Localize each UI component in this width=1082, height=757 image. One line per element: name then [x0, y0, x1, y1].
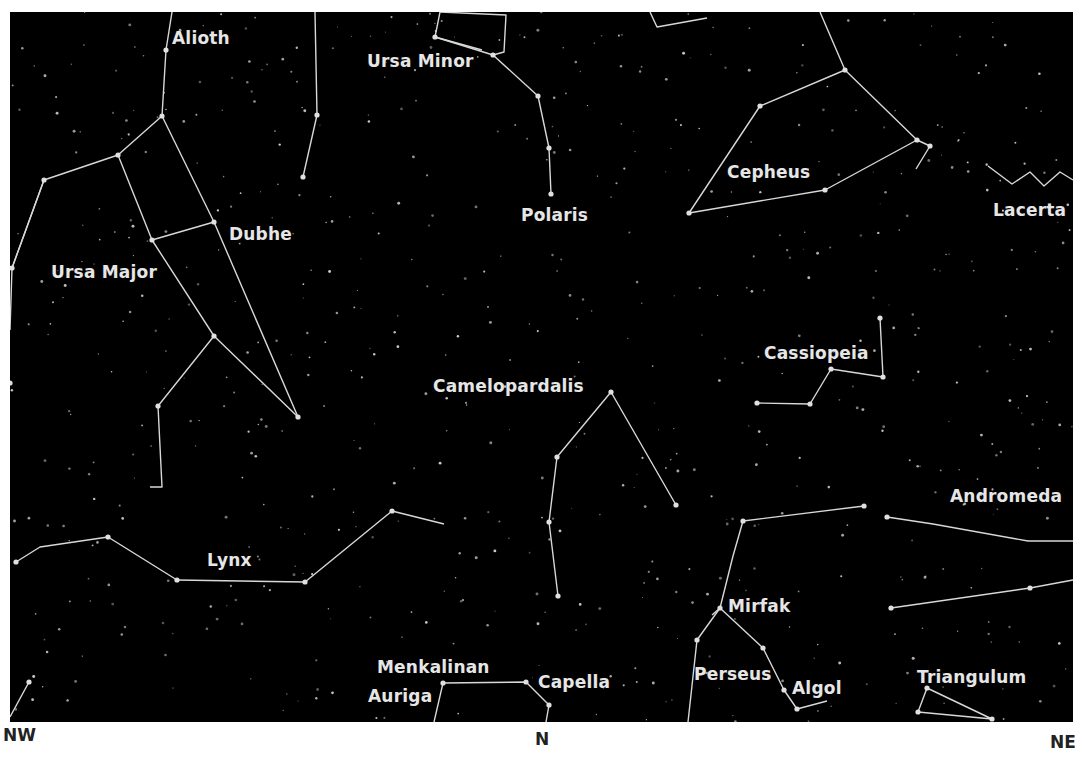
background-star	[657, 627, 658, 628]
background-star	[796, 72, 797, 73]
bright-star	[877, 315, 882, 320]
background-star	[303, 297, 304, 298]
background-star	[1055, 159, 1057, 161]
background-star	[734, 720, 737, 722]
background-star	[578, 361, 580, 363]
background-star	[830, 705, 832, 707]
background-star	[687, 13, 688, 14]
background-star	[1018, 641, 1020, 643]
bright-star	[757, 103, 762, 108]
background-star	[593, 42, 595, 44]
background-star	[466, 404, 467, 405]
bright-star	[807, 401, 812, 406]
constellation-line	[16, 511, 444, 582]
background-star	[210, 605, 212, 607]
background-star	[560, 259, 562, 261]
background-star	[172, 687, 173, 688]
background-star	[184, 377, 185, 378]
background-star	[576, 446, 577, 447]
background-star	[338, 529, 340, 531]
background-star	[852, 386, 854, 388]
background-star	[279, 143, 281, 145]
background-star	[727, 216, 728, 217]
background-star	[899, 229, 900, 230]
background-star	[693, 468, 696, 471]
background-star	[875, 270, 877, 272]
background-star	[248, 546, 250, 548]
background-star	[992, 36, 994, 38]
background-star	[574, 61, 577, 64]
background-star	[357, 290, 358, 291]
background-star	[1065, 668, 1066, 669]
background-star	[817, 710, 819, 712]
background-star	[940, 469, 942, 471]
background-star	[1008, 626, 1010, 628]
background-star	[69, 601, 71, 603]
background-star	[71, 64, 73, 66]
background-star	[226, 377, 228, 379]
background-star	[1031, 423, 1034, 426]
background-star	[1000, 451, 1002, 453]
background-star	[656, 578, 659, 581]
background-star	[370, 35, 372, 37]
background-star	[641, 302, 643, 304]
background-star	[536, 29, 539, 32]
background-star	[1021, 412, 1022, 413]
background-star	[808, 720, 810, 722]
background-star	[759, 191, 761, 193]
background-star	[195, 114, 197, 116]
background-star	[32, 675, 35, 678]
background-star	[856, 406, 859, 409]
background-star	[150, 445, 152, 447]
background-star	[666, 701, 667, 702]
background-star	[82, 225, 83, 226]
background-star	[706, 593, 709, 596]
background-star	[263, 585, 265, 587]
background-star	[748, 425, 749, 426]
background-star	[552, 126, 554, 128]
background-star	[758, 430, 761, 433]
background-star	[246, 351, 249, 354]
background-star	[934, 269, 936, 271]
background-star	[690, 57, 691, 58]
background-star	[155, 329, 157, 331]
compass-ne: NE	[1050, 734, 1076, 751]
background-star	[35, 613, 37, 615]
background-star	[499, 39, 501, 41]
background-star	[941, 126, 942, 127]
background-star	[316, 688, 319, 691]
background-star	[711, 495, 713, 497]
background-star	[636, 281, 639, 284]
background-star	[713, 27, 714, 28]
background-star	[993, 514, 994, 515]
background-star	[840, 575, 842, 577]
background-star	[644, 505, 647, 508]
background-star	[988, 621, 990, 623]
background-star	[906, 672, 909, 675]
background-star	[508, 537, 510, 539]
label-mirfak: Mirfak	[728, 598, 791, 615]
background-star	[643, 582, 645, 584]
background-star	[633, 131, 634, 132]
background-star	[789, 257, 791, 259]
bright-star	[548, 191, 553, 196]
background-star	[551, 254, 553, 256]
background-star	[859, 340, 862, 343]
background-star	[838, 399, 840, 401]
background-star	[411, 259, 412, 260]
background-star	[937, 124, 939, 126]
background-star	[319, 124, 320, 125]
background-star	[622, 484, 624, 486]
background-star	[384, 77, 385, 78]
background-star	[203, 25, 205, 27]
bright-star	[432, 34, 437, 39]
background-star	[222, 110, 223, 111]
background-star	[254, 17, 256, 19]
bright-star	[440, 680, 445, 685]
label-dubhe: Dubhe	[229, 226, 292, 243]
background-star	[985, 64, 987, 66]
background-star	[444, 591, 446, 593]
background-star	[189, 420, 192, 423]
bright-star	[828, 366, 833, 371]
background-star	[266, 64, 268, 66]
